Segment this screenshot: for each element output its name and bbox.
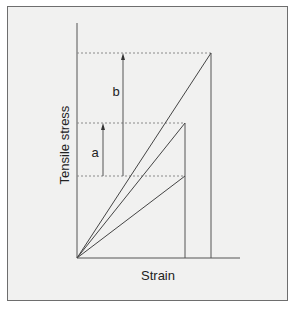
- shallow-line: [77, 176, 185, 258]
- label-a: a: [91, 145, 98, 160]
- label-b: b: [112, 84, 119, 99]
- diagram-canvas: [0, 0, 294, 309]
- arrow-b-head: [121, 53, 125, 60]
- y-axis-label: Tensile stress: [57, 106, 72, 185]
- middle-line: [77, 123, 185, 258]
- x-axis-label: Strain: [141, 268, 175, 283]
- arrow-a-head: [101, 123, 105, 130]
